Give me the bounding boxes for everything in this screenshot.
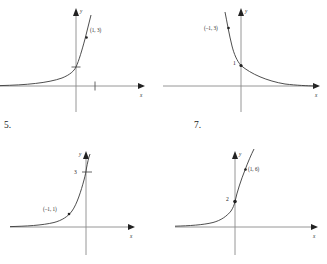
y-axis-arrowhead	[83, 151, 89, 159]
point-label: (1, 3)	[90, 27, 102, 34]
exponential-curve	[0, 15, 91, 86]
exponential-curve	[175, 149, 254, 226]
y-axis-label: y	[79, 8, 83, 14]
figure-bottom-right: x y 2 (1, 6)	[175, 135, 327, 261]
point-label: (–1, 1)	[43, 206, 57, 213]
point-label: (1, 6)	[248, 166, 260, 173]
x-axis-arrowhead	[138, 83, 145, 89]
x-axis-arrowhead	[311, 224, 318, 230]
figure-bottom-left: x y 3 (–1, 1)	[10, 135, 174, 261]
y-axis-arrowhead	[238, 8, 244, 16]
y-axis-arrowhead	[73, 8, 79, 16]
exponential-curve	[225, 12, 315, 86]
problem-number-7: 7.	[194, 120, 201, 130]
point-marker	[85, 36, 88, 39]
y-intercept-label: 3	[74, 169, 77, 175]
point-marker	[227, 27, 230, 30]
y-axis-label: y	[244, 8, 248, 14]
point-marker	[68, 213, 71, 216]
y-intercept-marker	[239, 64, 242, 67]
figure-top-left: x y (1, 3)	[0, 2, 164, 114]
x-axis-label: x	[312, 233, 316, 239]
y-axis-label: y	[238, 151, 242, 157]
x-axis-label: x	[314, 92, 318, 98]
y-axis-label: y	[78, 151, 82, 157]
y-intercept-marker	[233, 200, 237, 204]
x-axis-arrowhead	[128, 224, 135, 230]
figure-page: 5. 7. x y (1, 3)	[0, 0, 327, 264]
figure-top-right: x y 1 (–1, 3)	[163, 2, 327, 114]
x-axis-label: x	[139, 92, 143, 98]
x-axis-label: x	[129, 233, 133, 239]
point-label: (–1, 3)	[204, 25, 218, 32]
exponential-curve	[10, 154, 90, 227]
y-axis-arrowhead	[232, 151, 238, 159]
problem-number-5: 5.	[4, 120, 11, 130]
point-marker	[244, 168, 247, 171]
y-intercept-label: 1	[233, 60, 236, 66]
y-intercept-label: 2	[226, 196, 229, 202]
